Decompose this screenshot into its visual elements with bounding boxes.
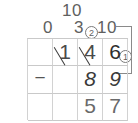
arithmetic-grid: 1 4 6 − 8 9 5	[27, 38, 128, 120]
minus-sign-icon: −	[34, 68, 45, 87]
cell-difference-blank	[28, 94, 53, 121]
digit-difference-tens: 5	[84, 95, 96, 116]
digit-minuend-tens: 4	[84, 41, 96, 62]
digit-subtrahend-tens: 8	[84, 68, 96, 89]
cell-minuend-blank	[28, 39, 53, 66]
cell-subtrahend-hundreds	[53, 66, 78, 93]
regroup-annotation-tens-three: 3	[74, 19, 83, 36]
cell-minus-operator: −	[28, 66, 53, 93]
cell-minuend-hundreds: 1	[53, 39, 78, 66]
cell-minuend-units: 6	[103, 39, 128, 66]
cell-subtrahend-tens: 8	[78, 66, 103, 93]
cell-minuend-tens: 4	[78, 39, 103, 66]
table-row: 1 4 6	[28, 39, 128, 66]
subtraction-worksheet: 10 0 3 10 2 1 1 4 6 − 8	[0, 0, 138, 123]
table-row: − 8 9	[28, 66, 128, 93]
regroup-annotation-hundreds-zero: 0	[43, 19, 52, 36]
regroup-annotation-top-ten: 10	[62, 2, 82, 19]
table-row: 5 7	[28, 94, 128, 121]
cell-difference-units: 7	[103, 94, 128, 121]
cell-subtrahend-units: 9	[103, 66, 128, 93]
digit-minuend-hundreds: 1	[59, 41, 71, 62]
cell-difference-hundreds	[53, 94, 78, 121]
regroup-annotation-units-ten: 10	[97, 19, 117, 36]
digit-subtrahend-units: 9	[109, 68, 121, 89]
digit-minuend-units: 6	[109, 41, 121, 62]
digit-difference-units: 7	[109, 95, 121, 116]
cell-difference-tens: 5	[78, 94, 103, 121]
